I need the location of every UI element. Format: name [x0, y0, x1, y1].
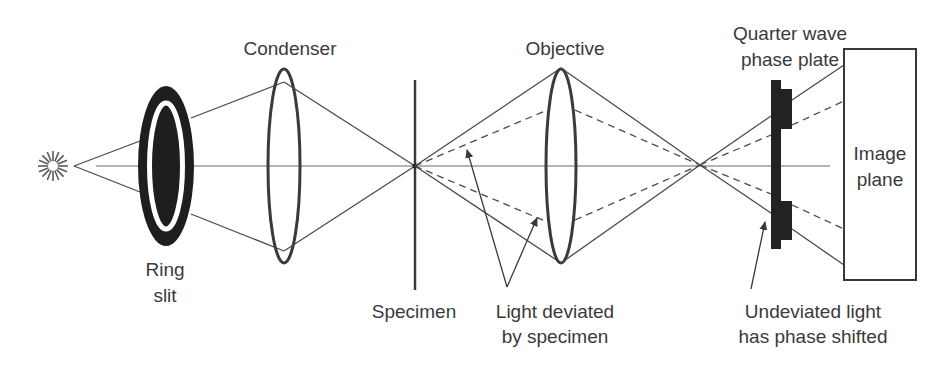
starburst-icon: [38, 151, 68, 181]
light-deviated-label-line2: by specimen: [502, 326, 609, 347]
condenser-label: Condenser: [244, 38, 338, 59]
objective-label: Objective: [525, 38, 604, 59]
light-deviated-label-line1: Light deviated: [496, 301, 614, 322]
phase-contrast-diagram: Ring slit Condenser Objective Specimen L…: [0, 0, 945, 367]
undeviated-label-line1: Undeviated light: [745, 301, 882, 322]
undeviated-label-line2: has phase shifted: [739, 326, 888, 347]
ring-slit-label-line1: Ring: [145, 259, 184, 280]
undeviated-light-pointer: [751, 222, 765, 289]
image-plane-label-line2: plane: [857, 169, 904, 190]
ring-slit-label-line2: slit: [153, 285, 177, 306]
deviated-light-pointers: [467, 150, 537, 287]
ring-slit: [138, 86, 194, 246]
phase-plate-label-line2: phase plate: [741, 49, 839, 70]
phase-plate: [771, 80, 792, 249]
image-plane-box: [844, 49, 916, 280]
specimen-label: Specimen: [372, 301, 457, 322]
image-plane-label-line1: Image: [854, 143, 907, 164]
phase-plate-label-line1: Quarter wave: [733, 23, 847, 44]
